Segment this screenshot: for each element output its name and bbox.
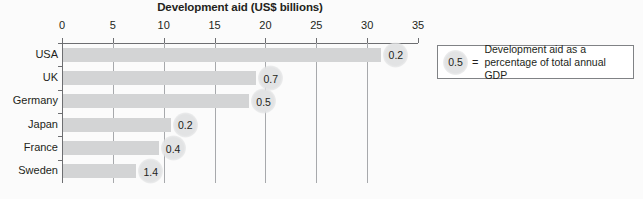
y-axis-line xyxy=(62,43,63,183)
category-label-sweden: Sweden xyxy=(0,164,58,176)
gridline-5 xyxy=(113,43,114,183)
bar-uk xyxy=(63,71,256,85)
x-tick-label-35: 35 xyxy=(412,19,424,31)
x-axis-line xyxy=(62,43,418,44)
y-tick-mark-usa xyxy=(58,43,62,44)
y-tick-mark-uk xyxy=(58,66,62,67)
category-label-japan: Japan xyxy=(0,118,58,130)
legend-value-bubble: 0.5 xyxy=(443,50,468,75)
x-axis-tick-labels: 05101520253035 xyxy=(0,19,643,33)
x-tick-label-0: 0 xyxy=(59,19,65,31)
plot-area: 0.20.70.50.20.41.4 xyxy=(62,43,418,183)
y-tick-mark-sweden xyxy=(58,160,62,161)
legend-description: Development aid as a percentage of total… xyxy=(484,43,633,82)
legend: 0.5 = Development aid as a percentage of… xyxy=(437,45,634,79)
bar-value-bubble-sweden: 1.4 xyxy=(138,159,163,184)
category-label-france: France xyxy=(0,141,58,153)
bar-sweden xyxy=(63,164,136,178)
gridline-10 xyxy=(164,43,165,183)
x-tick-label-25: 25 xyxy=(310,19,322,31)
bar-row: 0.7 xyxy=(63,71,419,85)
bar-row: 0.2 xyxy=(63,48,419,62)
legend-equals-sign: = xyxy=(472,56,478,68)
bar-value-bubble-uk: 0.7 xyxy=(258,66,283,91)
bar-japan xyxy=(63,118,171,132)
x-tick-label-10: 10 xyxy=(158,19,170,31)
category-label-usa: USA xyxy=(0,48,58,60)
y-tick-mark-france xyxy=(58,136,62,137)
bar-germany xyxy=(63,94,249,108)
gridline-25 xyxy=(316,43,317,183)
category-label-uk: UK xyxy=(0,71,58,83)
bar-row: 0.5 xyxy=(63,94,419,108)
x-tick-mark-0 xyxy=(62,38,63,43)
x-tick-label-30: 30 xyxy=(361,19,373,31)
y-axis-category-labels: USAUKGermanyJapanFranceSweden xyxy=(0,43,58,183)
x-tick-label-15: 15 xyxy=(208,19,220,31)
bar-value-bubble-france: 0.4 xyxy=(161,136,186,161)
gridline-30 xyxy=(367,43,368,183)
bar-value-bubble-germany: 0.5 xyxy=(251,89,276,114)
x-tick-label-20: 20 xyxy=(259,19,271,31)
y-tick-mark-japan xyxy=(58,113,62,114)
bar-france xyxy=(63,141,159,155)
category-label-germany: Germany xyxy=(0,94,58,106)
bar-value-bubble-japan: 0.2 xyxy=(173,112,198,137)
bar-row: 1.4 xyxy=(63,164,419,178)
bar-value-bubble-usa: 0.2 xyxy=(383,42,408,67)
chart-title: Development aid (US$ billions) xyxy=(62,1,418,13)
x-tick-label-5: 5 xyxy=(110,19,116,31)
x-tick-mark-35 xyxy=(418,38,419,43)
chart-page: Development aid (US$ billions) 051015202… xyxy=(0,0,643,199)
bar-row: 0.4 xyxy=(63,141,419,155)
y-tick-mark-germany xyxy=(58,90,62,91)
bar-usa xyxy=(63,48,381,62)
bar-row: 0.2 xyxy=(63,118,419,132)
gridline-15 xyxy=(215,43,216,183)
